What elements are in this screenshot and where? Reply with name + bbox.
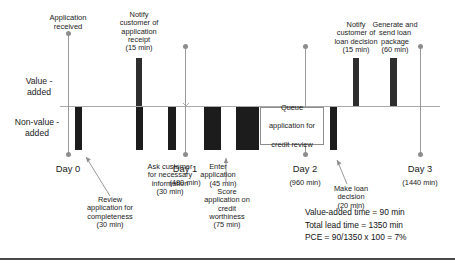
day2-minutes: (960 min): [283, 179, 327, 187]
annotation-generate-send-loan-package: Generate and send loan package (60 min): [362, 21, 428, 54]
annotation-notify-application-receipt: Notify customer of application receipt (…: [106, 11, 172, 52]
axis-label-non-value-added-line1: Non-value -: [6, 117, 68, 128]
day2-label: Day 2: [285, 164, 325, 175]
day-marker-day0: Day 0: [46, 164, 90, 175]
day-marker-day2-minutes: (960 min): [283, 179, 327, 187]
day-marker-day3-minutes: (1440 min): [396, 179, 444, 187]
value-stream-timeline-chart: Queue application for credit review Valu…: [0, 0, 455, 267]
annotation-application-received: Application received: [32, 14, 104, 31]
summary-metrics: Value-added time = 90 min Total lead tim…: [305, 206, 455, 244]
generate-package-line4: (60 min): [362, 46, 428, 54]
axis-label-non-value-added-line2: added: [6, 128, 68, 139]
day3-minutes: (1440 min): [396, 179, 444, 187]
notify-receipt-line5: (15 min): [106, 44, 172, 52]
day-marker-day2: Day 2: [285, 164, 325, 175]
axis-label-value-added: Value - added: [14, 76, 64, 97]
review-completeness-line4: (30 min): [66, 221, 154, 229]
day3-label: Day 3: [400, 164, 440, 175]
axis-label-value-added-line2: added: [14, 87, 64, 98]
summary-pce: PCE = 90/1350 x 100 = 7%: [305, 231, 455, 244]
day-marker-day3: Day 3: [400, 164, 440, 175]
bottom-divider: [0, 258, 455, 260]
summary-value-added-time: Value-added time = 90 min: [305, 206, 455, 219]
day1-minutes: (480 min): [163, 179, 207, 187]
day1-label: Day 1: [165, 164, 205, 175]
day-marker-day1-minutes: (480 min): [163, 179, 207, 187]
day0-label: Day 0: [46, 164, 90, 175]
axis-label-value-added-line1: Value -: [14, 76, 64, 87]
axis-label-non-value-added: Non-value - added: [6, 117, 68, 138]
annotation-score-application: Score application on credit worthiness (…: [194, 188, 260, 229]
annotation-review-application-completeness: Review application for completeness (30 …: [66, 196, 154, 229]
day-marker-day1: Day 1: [165, 164, 205, 175]
summary-total-lead-time: Total lead time = 1350 min: [305, 219, 455, 232]
score-application-line5: (75 min): [194, 221, 260, 229]
application-received-line2: received: [32, 23, 104, 32]
